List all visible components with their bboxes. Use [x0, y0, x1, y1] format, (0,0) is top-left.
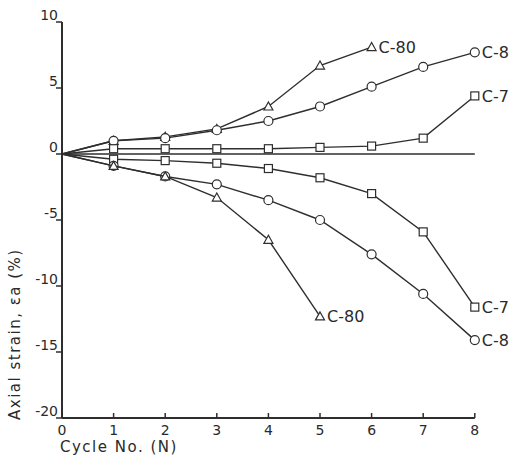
square-marker [264, 165, 272, 173]
square-marker [316, 174, 324, 182]
circle-marker [419, 62, 428, 71]
circle-marker [109, 136, 118, 145]
square-marker [419, 228, 427, 236]
series-end-label: C-7 [482, 298, 509, 317]
triangle-marker [212, 193, 221, 201]
y-tick-label: -20 [35, 403, 58, 419]
series-line [62, 154, 475, 340]
series-end-label: C-8 [482, 331, 509, 350]
circle-marker [316, 102, 325, 111]
x-tick-label: 0 [58, 422, 67, 438]
x-tick-label: 2 [161, 422, 170, 438]
series-end-label: C-8 [482, 43, 509, 62]
x-tick-label: 7 [419, 422, 428, 438]
series-end-label: C-80 [327, 307, 364, 326]
square-marker [316, 143, 324, 151]
square-marker [419, 134, 427, 142]
square-marker [368, 190, 376, 198]
circle-marker [367, 82, 376, 91]
series-end-label: C-7 [482, 87, 509, 106]
y-tick-label: -5 [44, 205, 58, 221]
square-marker [161, 145, 169, 153]
series-line [62, 154, 475, 307]
circle-marker [316, 216, 325, 225]
series-c-80-lower [62, 154, 325, 320]
circle-marker [161, 134, 170, 143]
y-tick-label: 10 [40, 7, 58, 23]
circle-marker [264, 117, 273, 126]
x-tick-label: 4 [264, 422, 273, 438]
square-marker [264, 145, 272, 153]
series-c-80-upper [62, 43, 376, 154]
circle-marker [212, 180, 221, 189]
x-tick-label: 5 [316, 422, 325, 438]
y-tick-label: -15 [35, 337, 58, 353]
x-tick-label: 3 [212, 422, 221, 438]
circle-marker [419, 289, 428, 298]
y-axis-label: Axial strain, εa (%) [6, 248, 24, 420]
y-tick-label: -10 [35, 271, 58, 287]
square-marker [471, 92, 479, 100]
series-c-8-lower [62, 154, 479, 345]
triangle-marker [316, 312, 325, 320]
x-axis-label: Cycle No. (N) [60, 438, 178, 456]
series-labels: C-80C-8C-7C-7C-8C-80 [327, 38, 509, 350]
circle-marker [470, 48, 479, 57]
triangle-marker [367, 43, 376, 51]
square-marker [161, 157, 169, 165]
y-tick-label: 5 [49, 73, 58, 89]
series-c-7-lower [62, 154, 479, 311]
square-marker [213, 159, 221, 167]
square-marker [110, 145, 118, 153]
series-line [62, 154, 320, 316]
square-marker [213, 145, 221, 153]
circle-marker [367, 250, 376, 259]
axial-strain-chart: 1050-5-10-15-20012345678 C-80C-8C-7C-7C-… [0, 0, 517, 473]
circle-marker [264, 196, 273, 205]
x-tick-label: 6 [367, 422, 376, 438]
series-layer [62, 43, 479, 345]
square-marker [368, 142, 376, 150]
series-line [62, 47, 372, 154]
x-tick-label: 1 [109, 422, 118, 438]
x-tick-label: 8 [470, 422, 479, 438]
circle-marker [470, 336, 479, 345]
y-tick-label: 0 [49, 139, 58, 155]
series-c-8-upper [62, 48, 479, 154]
square-marker [471, 303, 479, 311]
circle-marker [212, 126, 221, 135]
series-end-label: C-80 [379, 38, 416, 57]
